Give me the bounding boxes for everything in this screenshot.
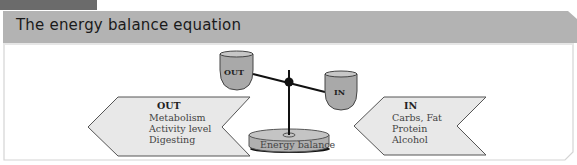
out-cup: OUT: [220, 51, 253, 90]
out-item: Metabolism: [149, 112, 206, 123]
in-arrow: IN Carbs, Fat Protein Alcohol: [354, 97, 486, 155]
out-item: Digesting: [149, 134, 195, 145]
energy-balance-label: Energy balance: [260, 139, 336, 150]
in-item: Alcohol: [391, 134, 428, 145]
in-arrow-heading: IN: [404, 100, 417, 111]
energy-balance-diagram: OUT Metabolism Activity level Digesting …: [0, 0, 577, 165]
in-cup: IN: [325, 71, 357, 110]
in-item: Carbs, Fat: [392, 112, 442, 123]
out-arrow-heading: OUT: [157, 100, 181, 111]
in-item: Protein: [392, 123, 427, 134]
out-cup-label: OUT: [224, 67, 244, 77]
in-cup-label: IN: [334, 87, 345, 97]
out-arrow: OUT Metabolism Activity level Digesting: [88, 97, 250, 156]
out-item: Activity level: [148, 123, 211, 134]
